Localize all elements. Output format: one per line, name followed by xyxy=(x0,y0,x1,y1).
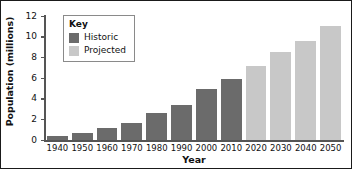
bar-slot xyxy=(269,16,294,140)
bar-slot xyxy=(194,16,219,140)
x-axis-line xyxy=(44,140,344,142)
x-tick-label: 2020 xyxy=(244,143,269,153)
x-tick-label: 2010 xyxy=(219,143,244,153)
legend-label: Projected xyxy=(84,45,126,56)
bar-slot xyxy=(318,16,343,140)
x-tick-label: 2030 xyxy=(269,143,294,153)
legend-entries: HistoricProjected xyxy=(69,31,126,57)
y-tick-label: 12 xyxy=(26,11,37,22)
y-tick: 6 xyxy=(1,73,45,84)
y-tick-label: 10 xyxy=(26,31,37,42)
bar-2040 xyxy=(295,41,316,140)
bar-2000 xyxy=(196,89,217,140)
y-tick: 10 xyxy=(1,31,45,42)
bar-1980 xyxy=(146,113,167,140)
bar-1970 xyxy=(121,123,142,140)
x-tick-label: 1980 xyxy=(144,143,169,153)
x-tick-label: 1960 xyxy=(95,143,120,153)
x-tick-label: 1950 xyxy=(70,143,95,153)
x-tick-label: 2000 xyxy=(194,143,219,153)
legend-swatch-projected xyxy=(69,46,79,56)
x-tick-label: 1940 xyxy=(45,143,70,153)
bar-1960 xyxy=(97,128,118,140)
legend-entry-projected: Projected xyxy=(69,44,126,57)
legend: Key HistoricProjected xyxy=(63,15,135,62)
y-tick-label: 6 xyxy=(31,73,37,84)
x-axis-title: Year xyxy=(45,154,343,165)
legend-label: Historic xyxy=(84,32,118,43)
bar-2030 xyxy=(270,52,291,140)
y-tick: 0 xyxy=(1,135,45,146)
y-tick: 2 xyxy=(1,114,45,125)
bar-slot xyxy=(244,16,269,140)
bar-slot xyxy=(144,16,169,140)
legend-swatch-historic xyxy=(69,33,79,43)
bar-2020 xyxy=(246,66,267,140)
y-tick: 12 xyxy=(1,11,45,22)
x-tick-label: 1990 xyxy=(169,143,194,153)
bar-slot xyxy=(169,16,194,140)
bar-1940 xyxy=(47,136,68,140)
bar-chart-figure: Population (millions) 024681012 19401950… xyxy=(0,0,352,169)
y-tick: 8 xyxy=(1,52,45,63)
bar-slot xyxy=(219,16,244,140)
x-tick-label: 2050 xyxy=(318,143,343,153)
y-tick-label: 8 xyxy=(31,52,37,63)
y-tick-label: 2 xyxy=(31,114,37,125)
x-tick-label: 1970 xyxy=(120,143,145,153)
bar-2010 xyxy=(221,79,242,140)
bar-2050 xyxy=(320,26,341,140)
y-tick-label: 0 xyxy=(31,135,37,146)
bar-1950 xyxy=(72,133,93,140)
x-tick-label: 2040 xyxy=(293,143,318,153)
legend-title: Key xyxy=(69,19,126,29)
y-tick: 4 xyxy=(1,93,45,104)
y-tick-label: 4 xyxy=(31,93,37,104)
bar-1990 xyxy=(171,105,192,140)
legend-entry-historic: Historic xyxy=(69,31,126,44)
bar-slot xyxy=(293,16,318,140)
